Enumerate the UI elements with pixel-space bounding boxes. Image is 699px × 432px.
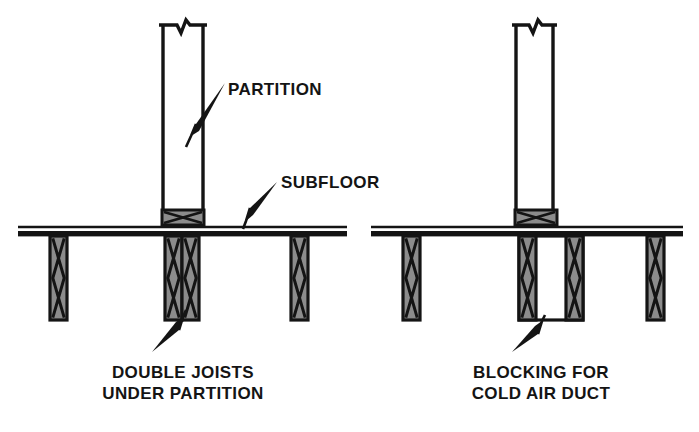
callout-subfloor-label: SUBFLOOR <box>281 173 380 192</box>
caption-blocking-line2: COLD AIR DUCT <box>472 384 611 403</box>
caption-double-joists-line2: UNDER PARTITION <box>102 384 264 403</box>
diagram-canvas: PARTITION SUBFLOOR DOUBLE JOISTS UNDER P… <box>0 0 699 432</box>
framing-detail-drawing: PARTITION SUBFLOOR DOUBLE JOISTS UNDER P… <box>0 0 699 432</box>
joist-right-right-figure <box>647 236 664 320</box>
caption-double-joists-line1: DOUBLE JOISTS <box>112 363 254 382</box>
double-joist-assembly <box>165 236 199 320</box>
callout-partition-label: PARTITION <box>228 80 322 99</box>
blocking-assembly <box>519 236 583 320</box>
caption-blocking-line1: BLOCKING FOR <box>473 363 609 382</box>
partition-sole-plate-right <box>515 210 557 225</box>
partition-sole-plate <box>162 210 204 225</box>
joist-left-right-figure <box>403 236 420 320</box>
joist-left <box>50 236 67 320</box>
joist-right <box>291 236 308 320</box>
